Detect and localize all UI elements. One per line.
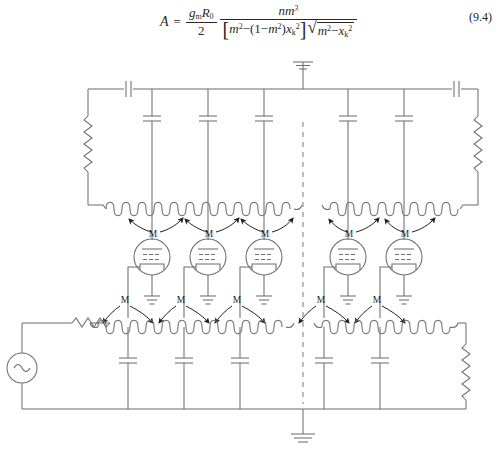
denominator-radical: √m2−xk2 [307, 21, 354, 39]
radical-sign: √ [307, 21, 316, 35]
bottom-right-terminating-resistor [458, 323, 470, 409]
den-minus: − [243, 21, 250, 36]
top-left-coil [106, 202, 302, 216]
grid-branch-2 [175, 327, 193, 409]
plate-branch-4 [339, 89, 357, 240]
num-m-exp: 3 [294, 4, 298, 13]
top-left-series-capacitor [126, 81, 131, 97]
vacuum-tube-3 [240, 239, 282, 318]
plate-branch-2 [199, 89, 217, 240]
equation-block: A = gmR0 2 nm3 [m2−(1−m2)xk2]√m2−xk2 (9.… [0, 0, 500, 48]
top-right-terminating-resistor [460, 89, 482, 209]
m-label-top-2: M [205, 229, 214, 239]
cathode-ground-2 [200, 296, 216, 304]
vacuum-tube-1 [128, 239, 170, 318]
radical-contents: m2−xk2 [317, 22, 355, 39]
prefactor-numerator: gmR0 [186, 6, 217, 22]
figure-page: A = gmR0 2 nm3 [m2−(1−m2)xk2]√m2−xk2 (9.… [0, 0, 500, 459]
equation-main-fraction: nm3 [m2−(1−m2)xk2]√m2−xk2 [220, 4, 358, 39]
m-label-top-1: M [149, 229, 158, 239]
top-mutual-coupling-1: M [129, 218, 183, 239]
m-label-top-5: M [401, 229, 410, 239]
cathode-ground-5 [396, 296, 412, 304]
bottom-rail [22, 409, 466, 442]
m-label-top-3: M [261, 229, 270, 239]
equation-equals-sign: = [174, 14, 181, 30]
ac-source[interactable] [7, 323, 37, 409]
equation-prefactor-fraction: gmR0 2 [186, 6, 217, 38]
plate-branch-5 [395, 89, 413, 240]
input-resistor [22, 318, 110, 327]
R0-R: R [202, 5, 210, 20]
circuit-svg: M M M M M [0, 44, 500, 459]
top-mutual-coupling-5: M [385, 218, 435, 239]
plate-branch-1 [143, 89, 161, 240]
cathode-ground-3 [256, 296, 272, 304]
bottom-left-coil [90, 320, 294, 334]
m-label-bottom-5: M [373, 295, 382, 305]
cathode-ground-4 [340, 296, 356, 304]
equation-lhs: A [160, 14, 169, 30]
grid-branch-3 [231, 327, 249, 409]
circuit-diagram: M M M M M [0, 44, 500, 459]
top-mutual-coupling-4: M [329, 218, 379, 239]
grid-branch-4 [315, 327, 333, 409]
top-mutual-coupling-3: M [241, 218, 293, 239]
bracket-close: ] [300, 18, 307, 40]
den-m1: m [229, 21, 238, 36]
equation-number: (9.4) [469, 10, 492, 25]
top-ground [293, 62, 313, 89]
prefactor-denominator: 2 [195, 23, 208, 38]
top-left-terminating-resistor [84, 89, 106, 209]
m-label-bottom-4: M [317, 295, 326, 305]
bottom-right-coil [314, 320, 458, 334]
main-denominator: [m2−(1−m2)xk2]√m2−xk2 [220, 20, 358, 39]
rad-m: m [318, 23, 327, 38]
plate-branch-3 [255, 89, 273, 240]
rad-x-exp: 2 [348, 24, 352, 33]
equation-expression: A = gmR0 2 nm3 [m2−(1−m2)xk2]√m2−xk2 [160, 4, 357, 39]
den-m2: m [268, 21, 277, 36]
m-label-bottom-2: M [177, 295, 186, 305]
m-label-top-4: M [345, 229, 354, 239]
cathode-ground-1 [144, 296, 160, 304]
grid-branch-1 [119, 327, 137, 409]
grid-branch-5 [371, 327, 389, 409]
top-right-series-capacitor [454, 81, 459, 97]
num-m: m [285, 3, 294, 18]
main-numerator: nm3 [275, 4, 301, 19]
top-mutual-coupling-2: M [185, 218, 239, 239]
top-right-coil [322, 202, 458, 216]
vacuum-tube-5 [380, 239, 422, 318]
vacuum-tube-2 [184, 239, 226, 318]
R0-sub: 0 [210, 12, 214, 21]
vacuum-tube-4 [324, 239, 366, 318]
m-label-bottom-3: M [233, 295, 242, 305]
m-label-bottom-1: M [121, 295, 130, 305]
